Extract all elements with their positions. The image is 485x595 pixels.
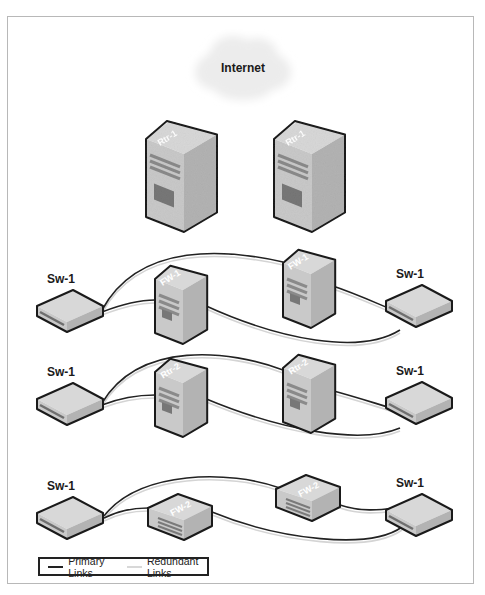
switch-label: Sw-1: [396, 267, 424, 281]
primary-link-swatch: [48, 566, 63, 568]
firewall-tier-1-left-device: FW-1: [155, 266, 207, 344]
switch-right: Sw-1: [386, 476, 452, 536]
internet-label: Internet: [221, 61, 265, 75]
switch-left: Sw-1: [37, 365, 103, 425]
devices: Rtr-1Rtr-1Sw-1Sw-1FW-1FW-1Sw-1Sw-1Rtr-2R…: [37, 121, 452, 540]
switch-left: Sw-1: [37, 479, 103, 539]
legend-primary-label: Primary Links: [68, 555, 116, 579]
switch-label: Sw-1: [396, 364, 424, 378]
router-rtr-1-2: Rtr-1: [274, 121, 345, 232]
legend-redundant-label: Redundant Links: [147, 555, 207, 579]
switch-right: Sw-1: [386, 267, 452, 327]
switch-label: Sw-1: [47, 365, 75, 379]
links: [102, 253, 402, 542]
router-rtr-1-1: Rtr-1: [146, 121, 217, 232]
firewall-tier-1-right-device: FW-1: [283, 250, 335, 328]
firewall-tier-2-left-device: FW-2: [148, 494, 212, 540]
switch-label: Sw-1: [47, 272, 75, 286]
switch-left: Sw-1: [37, 272, 103, 332]
router-tier-2-right-device: Rtr-2: [283, 355, 335, 433]
router-tier-2-left-device: Rtr-2: [155, 359, 207, 437]
switch-right: Sw-1: [386, 364, 452, 424]
redundant-link-swatch: [127, 566, 142, 568]
diagram-canvas: Internet Rtr-1Rtr-1Sw-1Sw-1FW-1FW-1Sw-1S…: [0, 0, 485, 595]
switch-label: Sw-1: [47, 479, 75, 493]
switch-label: Sw-1: [396, 476, 424, 490]
legend: Primary Links Redundant Links: [38, 557, 209, 576]
internet-cloud: Internet: [195, 36, 291, 100]
network-diagram: Internet Rtr-1Rtr-1Sw-1Sw-1FW-1FW-1Sw-1S…: [0, 0, 485, 595]
firewall-tier-2-right-device: FW-2: [276, 475, 340, 521]
